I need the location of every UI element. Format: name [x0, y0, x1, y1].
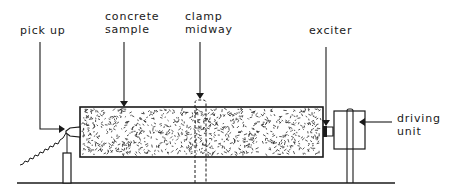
- aggregate-speck: [280, 148, 281, 149]
- aggregate-speck: [178, 117, 179, 118]
- aggregate-speck: [111, 145, 113, 146]
- pick-up-leader-arrow: [40, 42, 64, 129]
- aggregate-speck: [308, 136, 309, 137]
- aggregate-speck: [201, 114, 203, 115]
- aggregate-speck: [90, 110, 92, 111]
- label-driving-unit-line1: driving: [397, 112, 441, 125]
- aggregate-speck: [201, 115, 203, 116]
- aggregate-speck: [212, 148, 214, 149]
- pick-up-signal-wave: [20, 133, 66, 165]
- aggregate-speck: [272, 134, 274, 135]
- label-concrete-sample-line1: concrete: [105, 10, 159, 23]
- aggregate-speck: [103, 112, 104, 113]
- concrete-sample: [80, 107, 323, 157]
- aggregate-speck: [197, 150, 198, 151]
- aggregate-speck: [182, 129, 183, 130]
- aggregate-speck: [237, 135, 239, 136]
- aggregate-speck: [244, 142, 246, 143]
- aggregate-speck: [285, 122, 287, 123]
- aggregate-speck: [190, 134, 191, 135]
- aggregate-speck: [236, 135, 237, 137]
- pick-up-support-post: [63, 153, 71, 183]
- aggregate-speck: [273, 128, 275, 129]
- aggregate-speck: [286, 114, 289, 115]
- aggregate-speck: [294, 130, 295, 131]
- aggregate-speck: [83, 153, 84, 155]
- aggregate-speck: [83, 136, 84, 138]
- aggregate-speck: [253, 137, 254, 140]
- label-exciter: exciter: [309, 24, 352, 37]
- label-pick-up: pick up: [20, 24, 66, 37]
- driving-unit-box: [334, 111, 365, 149]
- driving-unit: [334, 109, 365, 183]
- aggregate-speck: [194, 129, 195, 130]
- aggregate-speck: [222, 145, 223, 148]
- aggregate-speck: [215, 119, 216, 120]
- aggregate-speck: [131, 132, 134, 133]
- aggregate-speck: [295, 135, 297, 136]
- aggregate-speck: [156, 110, 157, 111]
- aggregate-speck: [192, 112, 193, 114]
- aggregate-speck: [205, 128, 206, 129]
- label-concrete-sample-line2: sample: [105, 23, 150, 36]
- aggregate-speck: [312, 125, 313, 126]
- pick-up-cone: [66, 127, 80, 137]
- exciter-pad: [323, 126, 327, 137]
- aggregate-speck: [214, 141, 217, 142]
- aggregate-speck: [130, 143, 131, 146]
- label-clamp-midway-line2: midway: [185, 23, 233, 36]
- aggregate-speck: [314, 122, 315, 123]
- aggregate-speck: [116, 125, 117, 127]
- pick-up-transducer: [20, 127, 80, 183]
- aggregate-speck: [303, 111, 304, 113]
- aggregate-speck: [210, 124, 211, 125]
- aggregate-speck: [161, 125, 162, 126]
- label-clamp-midway-line1: clamp: [185, 10, 223, 23]
- aggregate-speck: [172, 133, 173, 135]
- aggregate-speck: [298, 146, 300, 147]
- aggregate-speck: [139, 130, 141, 131]
- aggregate-speck: [181, 124, 182, 125]
- aggregate-speck: [93, 109, 94, 110]
- aggregate-speck: [229, 113, 231, 114]
- aggregate-speck: [160, 110, 163, 111]
- aggregate-speck: [144, 138, 145, 139]
- aggregate-speck: [313, 128, 314, 129]
- aggregate-speck: [292, 115, 294, 116]
- aggregate-speck: [305, 123, 306, 124]
- aggregate-speck: [94, 136, 95, 137]
- aggregate-speck: [198, 135, 200, 136]
- aggregate-speck: [214, 137, 215, 138]
- aggregate-speck: [308, 144, 310, 145]
- aggregate-speck: [181, 142, 182, 144]
- aggregate-speck: [270, 115, 271, 116]
- aggregate-speck: [180, 127, 181, 128]
- exciter: [323, 126, 333, 137]
- label-driving-unit-line2: unit: [397, 125, 422, 138]
- aggregate-speck: [309, 119, 310, 121]
- resonance-test-diagram: pick up concrete sample clamp midway exc…: [0, 0, 450, 195]
- exciter-head: [327, 127, 333, 136]
- aggregate-speck: [256, 141, 257, 142]
- aggregate-speck: [151, 114, 153, 115]
